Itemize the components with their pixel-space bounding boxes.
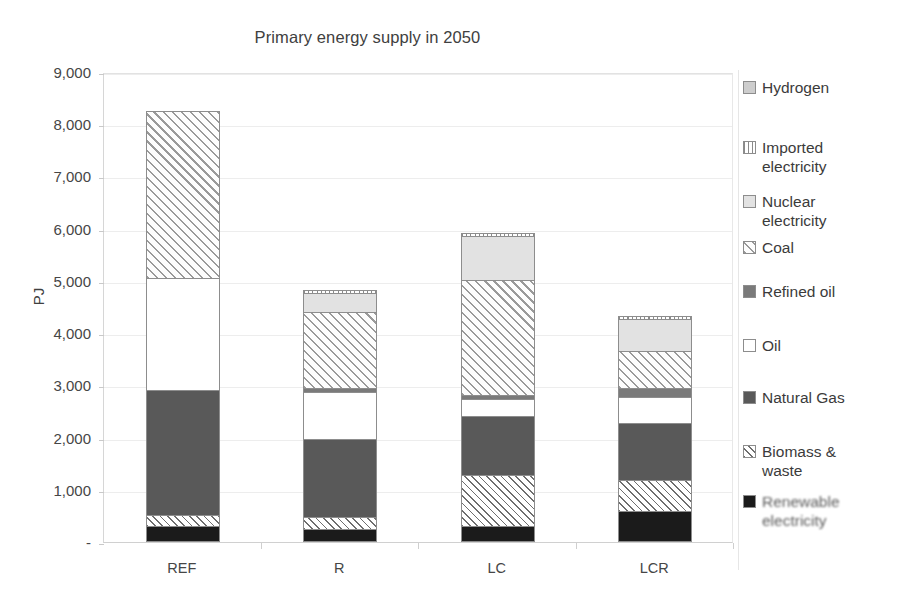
bar-segment-refined-oil[interactable] [303, 388, 377, 391]
y-tick-mark [99, 544, 104, 545]
x-tick-label-r: R [289, 560, 389, 576]
legend-label: Coal [762, 238, 794, 257]
y-tick-mark [99, 440, 104, 441]
bar-segment-coal[interactable] [618, 351, 692, 388]
bar-segment-nuclear-electricity[interactable] [461, 236, 535, 280]
legend-label: Natural Gas [762, 388, 845, 407]
y-tick-mark [99, 492, 104, 493]
bar-segment-natural-gas[interactable] [303, 439, 377, 518]
x-tick-mark [418, 543, 419, 549]
x-tick-label-lcr: LCR [604, 560, 704, 576]
legend-label: Imported electricity [762, 138, 827, 176]
nuclear-electricity-swatch [743, 195, 756, 208]
legend: HydrogenImported electricityNuclear elec… [738, 70, 919, 570]
x-tick-mark [576, 543, 577, 549]
bar-segment-nuclear-electricity[interactable] [618, 319, 692, 351]
refined-oil-swatch [743, 285, 756, 298]
legend-label: Nuclear electricity [762, 192, 827, 230]
y-tick-label: 4,000 [29, 326, 91, 341]
bar-segment-biomass-waste[interactable] [303, 517, 377, 529]
legend-label: Hydrogen [762, 78, 829, 97]
bar-segment-renewable-electricity[interactable] [618, 511, 692, 542]
bar-segment-oil[interactable] [461, 399, 535, 415]
bar-segment-natural-gas[interactable] [461, 416, 535, 475]
y-tick-label: 8,000 [29, 117, 91, 132]
legend-item-nuclear-electricity[interactable]: Nuclear electricity [743, 192, 918, 230]
x-tick-mark [261, 543, 262, 549]
bar-segment-biomass-waste[interactable] [618, 480, 692, 511]
bar-segment-renewable-electricity[interactable] [303, 529, 377, 542]
plot-area [103, 73, 733, 543]
y-tick-label: 3,000 [29, 378, 91, 393]
x-tick-label-ref: REF [132, 560, 232, 576]
y-tick-label: 9,000 [29, 65, 91, 80]
legend-item-renewable-electricity[interactable]: Renewable electricity [743, 492, 918, 530]
legend-item-natural-gas[interactable]: Natural Gas [743, 388, 918, 407]
legend-label: Oil [762, 336, 781, 355]
stacked-bar-ref[interactable] [146, 111, 220, 542]
legend-label: Refined oil [762, 282, 835, 301]
hydrogen-swatch [743, 81, 756, 94]
legend-label: Renewable electricity [762, 492, 840, 530]
bar-segment-natural-gas[interactable] [146, 390, 220, 515]
legend-item-hydrogen[interactable]: Hydrogen [743, 78, 918, 97]
legend-item-biomass-waste[interactable]: Biomass & waste [743, 442, 918, 480]
legend-item-oil[interactable]: Oil [743, 336, 918, 355]
y-tick-label: 1,000 [29, 483, 91, 498]
bar-segment-oil[interactable] [146, 278, 220, 390]
y-tick-mark [99, 74, 104, 75]
y-tick-label: - [29, 535, 91, 550]
chart-title: Primary energy supply in 2050 [0, 28, 735, 47]
bar-segment-nuclear-electricity[interactable] [303, 293, 377, 311]
biomass-waste-swatch [743, 445, 756, 458]
natural-gas-swatch [743, 391, 756, 404]
y-tick-mark [99, 387, 104, 388]
bar-segment-imported-electricity[interactable] [303, 290, 377, 293]
y-tick-label: 6,000 [29, 222, 91, 237]
bar-segment-refined-oil[interactable] [461, 395, 535, 400]
bar-segment-natural-gas[interactable] [618, 423, 692, 480]
x-tick-mark [733, 543, 734, 549]
bar-segment-imported-electricity[interactable] [618, 316, 692, 319]
bar-segment-renewable-electricity[interactable] [146, 526, 220, 542]
imported-electricity-swatch [743, 141, 756, 154]
bar-segment-coal[interactable] [303, 312, 377, 389]
bar-segment-oil[interactable] [618, 397, 692, 423]
bar-segment-refined-oil[interactable] [618, 388, 692, 397]
y-tick-label: 7,000 [29, 169, 91, 184]
legend-item-coal[interactable]: Coal [743, 238, 918, 257]
bar-segment-renewable-electricity[interactable] [461, 526, 535, 542]
stacked-bar-lcr[interactable] [618, 316, 692, 542]
legend-item-refined-oil[interactable]: Refined oil [743, 282, 918, 301]
stacked-bar-lc[interactable] [461, 233, 535, 542]
bar-segment-biomass-waste[interactable] [146, 515, 220, 526]
chart-container: Primary energy supply in 2050 PJ -1,0002… [0, 0, 919, 608]
bar-segment-imported-electricity[interactable] [461, 233, 535, 236]
coal-swatch [743, 241, 756, 254]
legend-item-imported-electricity[interactable]: Imported electricity [743, 138, 918, 176]
stacked-bar-r[interactable] [303, 290, 377, 542]
gridline [104, 74, 732, 75]
bar-segment-coal[interactable] [461, 280, 535, 395]
y-tick-label: 5,000 [29, 274, 91, 289]
bar-segment-coal[interactable] [146, 111, 220, 278]
y-tick-mark [99, 335, 104, 336]
y-tick-mark [99, 283, 104, 284]
y-tick-mark [99, 231, 104, 232]
bar-segment-biomass-waste[interactable] [461, 475, 535, 527]
y-tick-mark [99, 178, 104, 179]
y-tick-mark [99, 126, 104, 127]
bar-segment-oil[interactable] [303, 392, 377, 439]
oil-swatch [743, 339, 756, 352]
legend-label: Biomass & waste [762, 442, 836, 480]
x-tick-label-lc: LC [447, 560, 547, 576]
y-tick-label: 2,000 [29, 431, 91, 446]
renewable-electricity-swatch [743, 495, 756, 508]
